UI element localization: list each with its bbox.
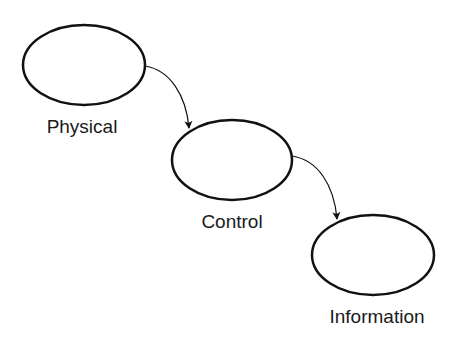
edge-control-to-information-arrow: [292, 156, 337, 219]
node-control-label: Control: [201, 211, 262, 233]
node-physical-ellipse: [23, 25, 145, 105]
node-physical-label: Physical: [47, 116, 118, 138]
node-control-ellipse: [172, 120, 292, 200]
node-information-ellipse: [312, 215, 434, 295]
node-information-label: Information: [329, 306, 424, 328]
edge-physical-to-control-arrow: [145, 66, 189, 128]
diagram-canvas: [0, 0, 454, 344]
